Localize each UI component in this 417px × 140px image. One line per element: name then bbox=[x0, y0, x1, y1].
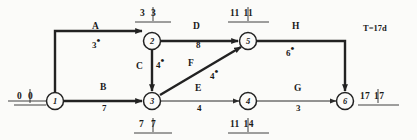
activity-duration-G: 3 bbox=[296, 104, 301, 113]
activity-duration-H: 6• bbox=[286, 48, 294, 58]
activity-label-C: C bbox=[136, 62, 143, 72]
node-label-1: 1 bbox=[48, 97, 62, 106]
node-label-2: 2 bbox=[145, 37, 159, 46]
node-times-2: 33 bbox=[140, 9, 156, 19]
node-early-5: 11 bbox=[230, 8, 240, 18]
duration-value-E: 4 bbox=[197, 103, 202, 113]
node-late-6: 17 bbox=[374, 91, 384, 101]
node-label-4: 4 bbox=[241, 97, 255, 106]
node-early-6: 17 bbox=[360, 91, 370, 101]
activity-label-A: A bbox=[92, 22, 99, 32]
activity-duration-B: 7 bbox=[102, 104, 107, 113]
duration-value-B: 7 bbox=[102, 103, 107, 113]
node-label-3: 3 bbox=[145, 97, 159, 106]
activity-label-F: F bbox=[188, 59, 194, 69]
node-times-1: 00 bbox=[17, 92, 33, 102]
node-late-5: 11 bbox=[244, 8, 254, 18]
activity-duration-F: 4• bbox=[210, 71, 218, 81]
activity-label-E: E bbox=[195, 84, 201, 94]
critical-star-A: • bbox=[97, 34, 101, 46]
activity-label-D: D bbox=[193, 22, 200, 32]
activity-label-H: H bbox=[292, 22, 299, 32]
total-duration-note: T=17d bbox=[363, 24, 387, 33]
activity-label-G: G bbox=[294, 84, 301, 94]
activity-duration-D: 8 bbox=[196, 41, 201, 50]
activity-duration-C: 4• bbox=[156, 60, 164, 70]
network-diagram-canvas: 1 2 3 4 5 6 00 33 77 1114 1111 1717 A B … bbox=[0, 0, 417, 140]
node-label-5: 5 bbox=[241, 37, 255, 46]
node-times-6: 1717 bbox=[360, 92, 384, 102]
node-early-4: 11 bbox=[230, 119, 240, 129]
node-late-1: 0 bbox=[28, 91, 33, 101]
activity-label-B: B bbox=[100, 83, 106, 93]
node-late-3: 7 bbox=[151, 119, 156, 129]
duration-value-G: 3 bbox=[296, 103, 301, 113]
critical-star-F: • bbox=[215, 65, 219, 77]
node-late-2: 3 bbox=[151, 8, 156, 18]
node-times-5: 1111 bbox=[230, 9, 253, 19]
node-early-3: 7 bbox=[139, 119, 144, 129]
node-early-2: 3 bbox=[140, 8, 145, 18]
critical-star-H: • bbox=[291, 42, 295, 54]
node-times-4: 1114 bbox=[230, 120, 254, 130]
node-label-6: 6 bbox=[338, 97, 352, 106]
node-late-4: 14 bbox=[244, 119, 254, 129]
activity-duration-A: 3• bbox=[92, 40, 100, 50]
node-times-3: 77 bbox=[139, 120, 156, 130]
critical-star-C: • bbox=[161, 54, 165, 66]
activity-duration-E: 4 bbox=[197, 104, 202, 113]
node-early-1: 0 bbox=[17, 91, 22, 101]
duration-value-D: 8 bbox=[196, 40, 201, 50]
network-graph bbox=[0, 0, 417, 140]
